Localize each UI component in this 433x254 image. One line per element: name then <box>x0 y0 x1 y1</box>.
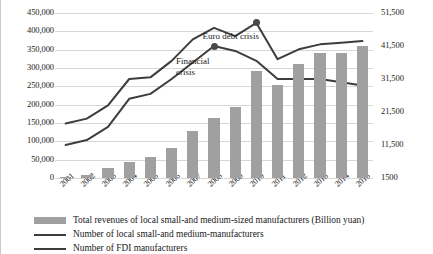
left-axis-line <box>0 0 1 166</box>
bar <box>166 148 177 178</box>
left-axis-tick-label: 150,000 <box>27 118 54 127</box>
legend-item-label: Number of FDI manufacturers <box>73 243 187 254</box>
legend-line-swatch-icon <box>34 248 66 250</box>
right-axis-tick-label: 1500 <box>381 173 398 182</box>
annotation-euro-debt-crisis: Euro debt crisis <box>202 31 259 42</box>
left-axis-tick-label: 250,000 <box>27 81 54 90</box>
bar <box>357 46 368 178</box>
bar <box>251 71 262 178</box>
legend-line-swatch-icon <box>34 234 66 236</box>
left-axis-tick-label: 350,000 <box>27 45 54 54</box>
legend-item: Number of FDI manufacturers <box>34 242 429 254</box>
bar <box>293 64 304 178</box>
bar <box>208 118 219 178</box>
right-axis-tick-label: 31,500 <box>381 74 404 83</box>
left-axis-tick-label: 400,000 <box>27 26 54 35</box>
left-axis-tick-label: 200,000 <box>27 100 54 109</box>
annotation-financial-crisis: Financial crisis <box>176 56 210 77</box>
bar <box>187 131 198 178</box>
right-axis-tick-label: 21,500 <box>381 107 404 116</box>
right-axis-tick-label: 11,500 <box>381 140 403 149</box>
chart-figure: 050,000100,000150,000200,000250,000300,0… <box>0 0 433 254</box>
left-axis-tick-label: 0 <box>50 173 54 182</box>
right-axis-tick-label: 51,500 <box>381 8 404 17</box>
legend-item-label: Total revenues of local small-and medium… <box>73 215 364 226</box>
bar <box>336 53 347 178</box>
bar <box>230 107 241 179</box>
left-axis-tick-label: 100,000 <box>27 136 54 145</box>
bar <box>60 177 71 178</box>
bar <box>314 53 325 178</box>
legend-item-label: Number of local small-and medium-manufac… <box>73 229 264 240</box>
legend-item: Total revenues of local small-and medium… <box>34 214 429 227</box>
left-axis-tick-label: 450,000 <box>27 8 54 17</box>
left-axis-tick-label: 300,000 <box>27 63 54 72</box>
right-axis-tick-label: 41,500 <box>381 41 404 50</box>
annotation-marker <box>211 43 218 50</box>
bar <box>272 85 283 179</box>
bar <box>102 168 113 178</box>
right-axis-line <box>0 166 1 254</box>
chart-legend: Total revenues of local small-and medium… <box>34 214 429 254</box>
bar <box>145 157 156 178</box>
left-axis-tick-label: 50,000 <box>31 155 54 164</box>
legend-item: Number of local small-and medium-manufac… <box>34 228 429 241</box>
legend-bar-swatch-icon <box>34 217 66 224</box>
bar <box>124 162 135 178</box>
bar <box>81 175 92 178</box>
